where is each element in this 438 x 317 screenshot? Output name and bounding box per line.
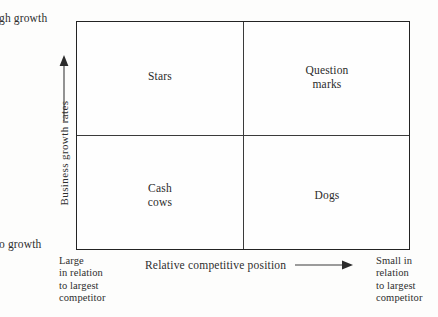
quadrant-dogs-label: Dogs [314,189,339,203]
quadrant-cash-cows-label: Cash cows [148,182,172,209]
quadrant-cash-cows[interactable]: Cash cows [77,136,243,250]
bcg-matrix-diagram: gh growth o growth Business growth rates… [0,0,438,317]
x-axis-left-note: Large in relation to largest competitor [59,255,106,305]
y-axis: Business growth rates [48,55,74,245]
x-axis: Relative competitive position [145,256,353,274]
quadrant-question-marks-label: Question marks [305,64,348,91]
quadrant-stars[interactable]: Stars [77,22,243,135]
arrow-right-icon [295,260,353,270]
matrix-frame: Stars Question marks Cash cows Dogs [76,21,410,250]
x-axis-label: Relative competitive position [145,259,286,271]
y-axis-high-growth-label: gh growth [0,12,47,24]
quadrant-dogs[interactable]: Dogs [244,136,410,250]
quadrant-question-marks[interactable]: Question marks [244,22,410,135]
y-axis-no-growth-label: o growth [0,238,41,250]
quadrant-stars-label: Stars [148,70,172,84]
x-axis-right-note: Small in relation to largest competitor [376,255,423,305]
y-axis-label: Business growth rates [58,73,70,233]
